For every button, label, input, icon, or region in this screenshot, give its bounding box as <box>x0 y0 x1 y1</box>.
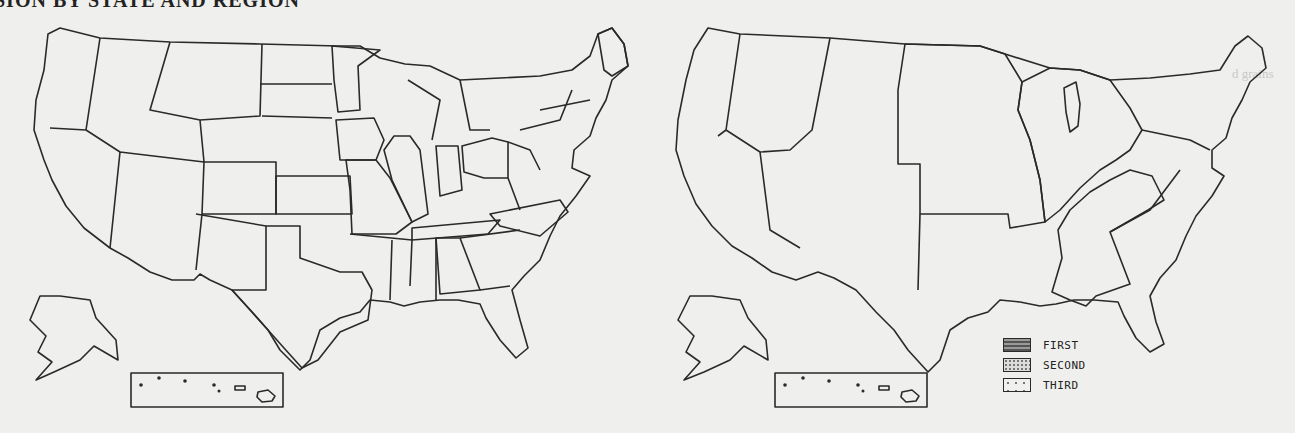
legend-item-first: FIRST <box>1003 336 1086 354</box>
legend-label: SECOND <box>1043 359 1086 372</box>
region-first <box>898 44 1045 228</box>
region-second <box>1018 68 1142 222</box>
state-texas <box>232 226 372 368</box>
map-by-state <box>0 0 650 433</box>
alaska-outline <box>30 296 118 380</box>
legend: FIRST SECOND THIRD <box>1003 336 1086 396</box>
state-tennessee <box>412 220 500 240</box>
hawaii-inset-box <box>131 373 283 407</box>
state-minnesota <box>332 46 380 112</box>
legend-item-third: THIRD <box>1003 376 1086 394</box>
legend-label: THIRD <box>1043 379 1079 392</box>
swatch-second-icon <box>1003 358 1031 372</box>
state-colorado <box>202 162 276 214</box>
hawaii-inset-box <box>775 373 927 407</box>
state-maine <box>598 28 628 76</box>
swatch-first-icon <box>1003 338 1031 352</box>
legend-item-second: SECOND <box>1003 356 1086 374</box>
state-missouri <box>346 160 412 234</box>
state-iowa <box>336 118 384 160</box>
swatch-third-icon <box>1003 378 1031 392</box>
state-north-carolina <box>490 200 568 236</box>
map-by-region <box>650 0 1295 433</box>
state-alabama <box>436 238 480 294</box>
state-kansas <box>276 176 352 214</box>
region-third <box>1052 170 1164 306</box>
legend-label: FIRST <box>1043 339 1079 352</box>
state-indiana <box>436 146 462 196</box>
state-ohio <box>462 138 508 178</box>
